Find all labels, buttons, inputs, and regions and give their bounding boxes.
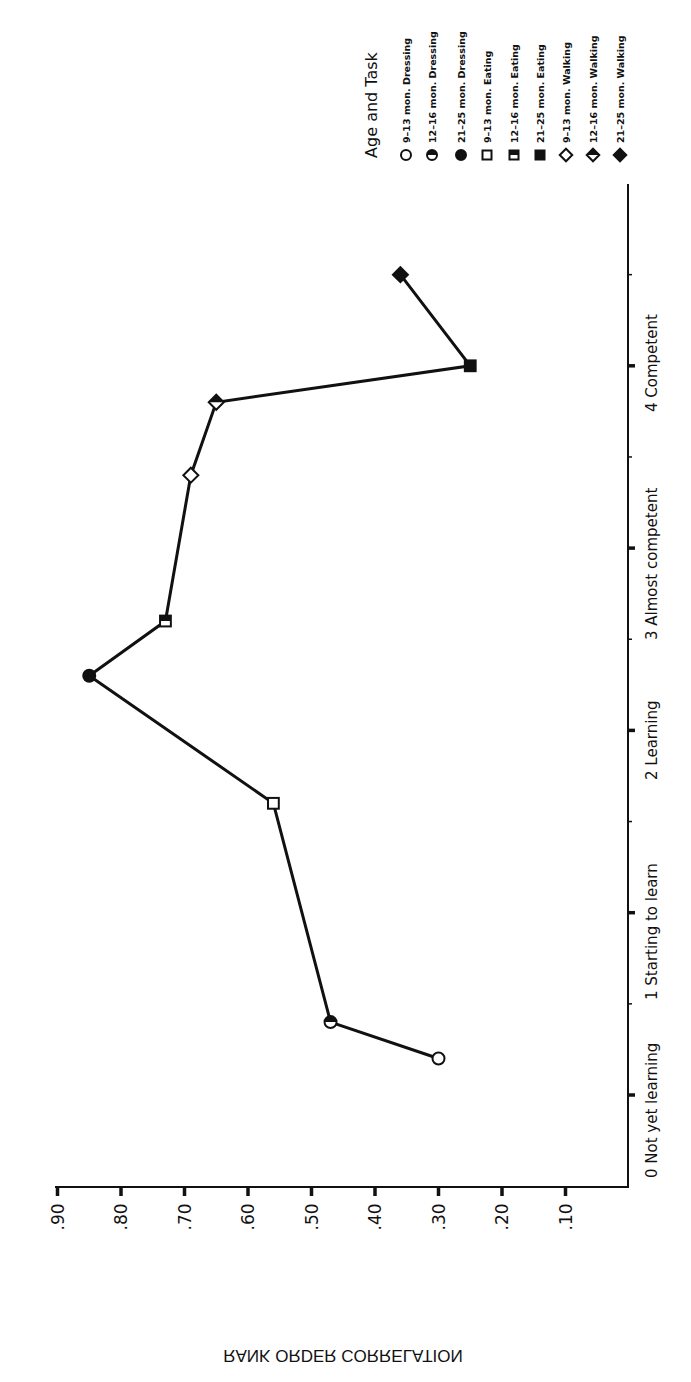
data-point-e21 bbox=[465, 360, 476, 371]
legend-marker-w9 bbox=[560, 149, 573, 162]
competence-tick-label: 1 Starting to learn bbox=[643, 863, 661, 1000]
correlation-tick-label: .90 bbox=[48, 1203, 68, 1230]
legend-label: 9–13 mon. Walking bbox=[561, 42, 572, 143]
legend-marker-e21 bbox=[536, 151, 545, 160]
axes bbox=[55, 184, 628, 1187]
y-axis-title: RANK ORDER CORRELATION bbox=[223, 1346, 463, 1365]
competence-tick-label: 2 Learning bbox=[643, 701, 661, 780]
competence-tick-label: 0 Not yet learning bbox=[643, 1043, 661, 1178]
data-point-w12 bbox=[209, 395, 224, 410]
series-group bbox=[83, 267, 475, 1064]
correlation-tick-label: .70 bbox=[175, 1203, 195, 1230]
chart: .90.80.70.60.50.40.30.20.10 0 Not yet le… bbox=[0, 0, 691, 1382]
data-point-d12 bbox=[325, 1016, 337, 1028]
legend-label: 21–25 mon. Dressing bbox=[456, 31, 467, 143]
correlation-tick-label: .40 bbox=[365, 1203, 385, 1230]
legend-marker-d12 bbox=[427, 150, 437, 160]
legend-label: 21–25 mon. Eating bbox=[535, 44, 546, 143]
legend-marker-w21 bbox=[614, 149, 627, 162]
legend-label: 12–16 mon. Walking bbox=[588, 35, 599, 143]
legend: Age and Task 9–13 mon. Dressing12–16 mon… bbox=[362, 31, 626, 161]
legend-label: 12–16 mon. Eating bbox=[509, 44, 520, 143]
data-point-w9 bbox=[183, 468, 198, 483]
data-point-e12 bbox=[160, 616, 171, 627]
data-point-e9 bbox=[268, 798, 279, 809]
correlation-tick-label: .80 bbox=[111, 1203, 131, 1230]
legend-label: 9–13 mon. Dressing bbox=[401, 38, 412, 143]
data-point-d9 bbox=[433, 1053, 445, 1065]
legend-marker-e9 bbox=[483, 151, 492, 160]
correlation-tick-label: .30 bbox=[429, 1203, 449, 1230]
legend-label: 12–16 mon. Dressing bbox=[427, 31, 438, 143]
competence-axis-ticks: 0 Not yet learning1 Starting to learn2 L… bbox=[628, 275, 661, 1178]
correlation-tick-label: .20 bbox=[492, 1203, 512, 1230]
legend-label: 9–13 mon. Eating bbox=[482, 51, 493, 143]
series-line bbox=[89, 275, 470, 1059]
competence-tick-label: 4 Competent bbox=[643, 314, 661, 412]
competence-tick-label: 3 Almost competent bbox=[643, 488, 661, 640]
legend-label: 21–25 mon. Walking bbox=[615, 35, 626, 143]
legend-title: Age and Task bbox=[362, 51, 381, 157]
correlation-axis-ticks: .90.80.70.60.50.40.30.20.10 bbox=[48, 1187, 576, 1231]
legend-marker-d21 bbox=[456, 150, 466, 160]
correlation-tick-label: .60 bbox=[238, 1203, 258, 1230]
correlation-tick-label: .50 bbox=[302, 1203, 322, 1230]
legend-marker-d9 bbox=[401, 150, 411, 160]
correlation-tick-label: .10 bbox=[556, 1203, 576, 1230]
legend-marker-w12 bbox=[587, 149, 600, 162]
axis-lines bbox=[55, 184, 628, 1187]
legend-marker-e12 bbox=[510, 151, 519, 160]
data-point-d21 bbox=[83, 670, 95, 682]
